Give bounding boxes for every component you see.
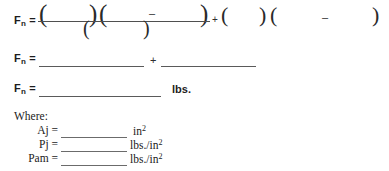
where-item-2-unit: lbs./in2 bbox=[130, 152, 162, 165]
equals-sign-3: = bbox=[29, 82, 36, 94]
trailing-group1-open-paren: ( bbox=[221, 4, 228, 26]
fn-label-text: F bbox=[14, 14, 21, 26]
where-item-1-unit: lbs./in2 bbox=[130, 138, 162, 151]
formula-line-3-blank[interactable] bbox=[39, 96, 161, 97]
denominator-group-blank[interactable] bbox=[92, 35, 144, 36]
equals-sign-1: = bbox=[29, 14, 36, 26]
trailing-group2-close-paren: ) bbox=[372, 4, 379, 26]
trailing-group1-close-paren: ) bbox=[259, 4, 266, 26]
equals-sign-2: = bbox=[29, 52, 36, 64]
trailing-group2-blank-left[interactable] bbox=[280, 22, 318, 23]
where-item-2-blank[interactable] bbox=[61, 165, 127, 166]
numerator-group2-open-paren: ( bbox=[99, 1, 107, 26]
trailing-group1-blank[interactable] bbox=[230, 22, 262, 23]
denominator-group-open-paren: ( bbox=[83, 18, 90, 38]
where-item-0-unit-superscript: 2 bbox=[142, 124, 146, 133]
formula-line-3-unit: lbs. bbox=[172, 83, 191, 95]
where-item-2-label: Pam = bbox=[0, 152, 58, 164]
fn-label-text-3: F bbox=[14, 82, 21, 94]
formula-line-2-blank-2[interactable] bbox=[161, 66, 256, 67]
fn-label-text-2: F bbox=[14, 52, 21, 64]
where-title: Where: bbox=[14, 110, 48, 122]
formula-line-3-label: Fn = bbox=[14, 82, 36, 96]
denominator-group-close-paren: ) bbox=[143, 18, 150, 38]
where-item-1-label: Pj = bbox=[0, 138, 58, 150]
formula-line-2-plus: + bbox=[150, 55, 156, 66]
numerator-group1-open-paren: ( bbox=[39, 1, 47, 26]
formula-line-1-label: Fn = bbox=[14, 14, 36, 28]
where-item-0-unit: in2 bbox=[133, 124, 146, 137]
where-item-2-unit-superscript: 2 bbox=[158, 152, 162, 161]
formula-line-1-plus: + bbox=[212, 15, 218, 25]
trailing-group2-blank-right[interactable] bbox=[334, 22, 372, 23]
numerator-group1-close-paren: ) bbox=[89, 1, 97, 26]
numerator-group2-close-paren: ) bbox=[200, 1, 208, 26]
fraction-bar bbox=[38, 21, 210, 22]
worksheet-page: Fn = ( ) ( – ) ( ) + ( ) ( – ) Fn = + Fn… bbox=[0, 0, 389, 171]
where-item-0-label: Aj = bbox=[0, 124, 58, 136]
trailing-group2-open-paren: ( bbox=[270, 4, 277, 26]
trailing-group2-minus: – bbox=[322, 12, 328, 23]
formula-line-2-label: Fn = bbox=[14, 52, 36, 66]
formula-line-2-blank-1[interactable] bbox=[39, 66, 144, 67]
where-item-1-blank[interactable] bbox=[61, 151, 127, 152]
where-item-1-unit-superscript: 2 bbox=[158, 138, 162, 147]
where-item-0-blank[interactable] bbox=[61, 137, 127, 138]
